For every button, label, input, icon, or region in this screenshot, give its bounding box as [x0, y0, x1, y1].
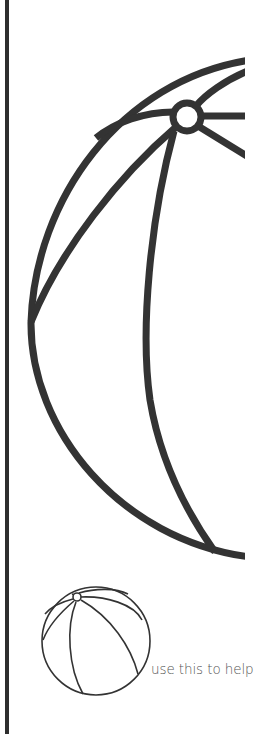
- small-ball-seam-upper-right: [81, 597, 142, 620]
- small-ball-outline: [42, 587, 150, 695]
- ball-seam-lower-right: [198, 126, 250, 158]
- small-ball-seam-right: [81, 600, 138, 674]
- ball-seam-middle: [146, 131, 215, 552]
- hint-caption: use this to help: [151, 661, 254, 677]
- large-beach-ball-icon: [0, 0, 280, 580]
- ball-valve: [173, 103, 201, 131]
- small-ball-valve: [73, 593, 81, 601]
- small-ball-seam-middle: [70, 602, 83, 694]
- reference-beach-ball-icon: [36, 582, 156, 700]
